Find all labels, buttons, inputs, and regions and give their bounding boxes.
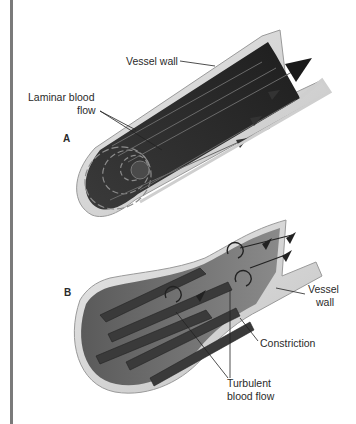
panel-b-vessel (74, 220, 322, 393)
blood-flow-illustration (0, 0, 356, 424)
label-constriction: Constriction (260, 337, 315, 349)
panel-a-vessel (74, 30, 330, 221)
label-vessel-wall-a: Vessel wall (126, 55, 178, 67)
label-turbulent-flow-line2: blood flow (227, 390, 274, 402)
panel-letter-a: A (63, 133, 70, 144)
panel-letter-b: B (64, 287, 71, 298)
label-vessel-wall-b-line1: Vessel (308, 283, 339, 295)
label-laminar-flow-line2: flow (77, 104, 96, 116)
label-laminar-flow-line1: Laminar blood (28, 91, 95, 103)
label-turbulent-flow-line1: Turbulent (227, 377, 271, 389)
label-vessel-wall-b-line2: wall (316, 296, 334, 308)
panel-a-central-core (131, 161, 149, 179)
